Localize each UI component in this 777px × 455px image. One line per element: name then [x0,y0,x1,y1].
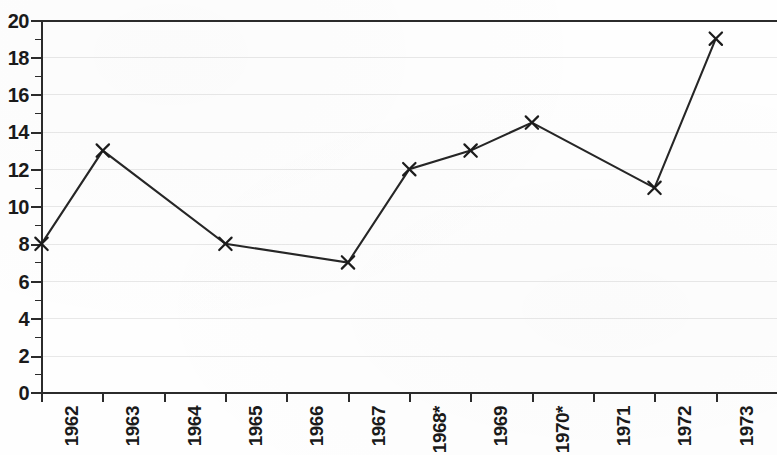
y-tick-16 [31,94,42,96]
y-tick-minor-7 [35,262,42,263]
gridline-16 [42,94,777,95]
x-axis-label-1968: 1968* [430,406,449,453]
x-axis-label-1970: 1970* [553,406,572,453]
y-tick-minor-17 [35,76,42,77]
y-axis-label-20: 20 [0,11,29,31]
y-axis-label-6: 6 [0,272,29,292]
y-tick-minor-19 [35,39,42,40]
x-tick-1972 [654,393,656,402]
x-tick-1970 [532,393,534,402]
x-axis-label-1966: 1966 [307,406,326,446]
y-tick-4 [31,318,42,320]
y-axis-label-2: 2 [0,346,29,366]
y-axis-label-0: 0 [0,383,29,403]
y-tick-20 [31,20,42,22]
x-axis-label-1967: 1967 [369,406,388,446]
y-axis-label-18: 18 [0,48,29,68]
gridline-4 [42,318,777,319]
x-tick-1962 [41,393,43,402]
y-axis-label-8: 8 [0,234,29,254]
gridline-18 [42,57,777,58]
y-axis-label-16: 16 [0,85,29,105]
x-axis-label-1964: 1964 [185,406,204,446]
y-tick-10 [31,206,42,208]
y-tick-18 [31,57,42,59]
x-tick-1966 [286,393,288,402]
y-tick-minor-1 [35,374,42,375]
x-tick-1969 [470,393,472,402]
gridline-8 [42,244,777,245]
y-tick-2 [31,356,42,358]
y-tick-8 [31,244,42,246]
x-axis-label-1973: 1973 [737,406,756,446]
gridline-2 [42,356,777,357]
y-tick-minor-9 [35,225,42,226]
y-tick-12 [31,169,42,171]
chart-figure: 0 2 4 6 8 10 12 14 16 18 20 1962 1963 19… [0,0,777,455]
x-tick-1964 [164,393,166,402]
x-axis-label-1969: 1969 [491,406,510,446]
y-axis-label-14: 14 [0,122,29,142]
x-tick-1968 [409,393,411,402]
x-tick-1963 [102,393,104,402]
y-tick-minor-13 [35,150,42,151]
x-axis-label-1971: 1971 [614,406,633,446]
y-tick-6 [31,281,42,283]
x-axis-label-1963: 1963 [123,406,142,446]
gridline-6 [42,281,777,282]
gridline-14 [42,132,777,133]
y-axis-label-12: 12 [0,160,29,180]
x-tick-1965 [225,393,227,402]
gridline-12 [42,169,777,170]
x-axis-label-1972: 1972 [675,406,694,446]
y-tick-minor-15 [35,113,42,114]
x-tick-1973 [716,393,718,402]
y-axis-label-10: 10 [0,197,29,217]
x-tick-1971 [593,393,595,402]
plot-area [42,20,777,393]
axis-top-border [42,20,777,22]
y-axis-label-4: 4 [0,309,29,329]
x-tick-1967 [348,393,350,402]
x-axis-label-1965: 1965 [246,406,265,446]
x-axis-label-1962: 1962 [62,406,81,446]
y-tick-minor-3 [35,337,42,338]
y-tick-14 [31,132,42,134]
gridline-10 [42,206,777,207]
y-tick-minor-5 [35,300,42,301]
y-tick-minor-11 [35,188,42,189]
